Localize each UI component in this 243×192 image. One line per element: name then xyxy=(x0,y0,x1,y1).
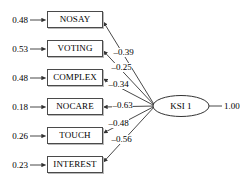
diagram-connectors xyxy=(0,0,243,192)
loading-label-nocare: –0.63 xyxy=(112,101,133,110)
residual-arrows xyxy=(30,20,46,165)
residual-value-nocare: 0.18 xyxy=(2,103,28,112)
path-diagram: 0.48 0.53 0.48 0.18 0.26 0.23 NOSAY VOTI… xyxy=(0,0,243,192)
residual-value-interest: 0.23 xyxy=(2,161,28,170)
indicator-box-voting[interactable]: VOTING xyxy=(47,40,103,57)
residual-value-complex: 0.48 xyxy=(2,74,28,83)
latent-variable-label[interactable]: KSI 1 xyxy=(153,102,209,111)
loading-label-nosay: –0.39 xyxy=(113,48,134,57)
loading-label-touch: –0.48 xyxy=(108,119,129,128)
indicator-box-interest[interactable]: INTEREST xyxy=(47,156,103,173)
loading-label-voting: –0.25 xyxy=(111,63,132,72)
residual-value-touch: 0.26 xyxy=(2,132,28,141)
residual-value-nosay: 0.48 xyxy=(2,16,28,25)
indicator-box-nocare[interactable]: NOCARE xyxy=(47,98,103,115)
loading-label-complex: –0.34 xyxy=(108,80,129,89)
latent-variance-value: 1.00 xyxy=(224,102,240,111)
indicator-box-complex[interactable]: COMPLEX xyxy=(47,69,103,86)
indicator-box-nosay[interactable]: NOSAY xyxy=(47,11,103,28)
indicator-box-touch[interactable]: TOUCH xyxy=(47,127,103,144)
loading-label-interest: –0.56 xyxy=(111,135,132,144)
residual-value-voting: 0.53 xyxy=(2,45,28,54)
